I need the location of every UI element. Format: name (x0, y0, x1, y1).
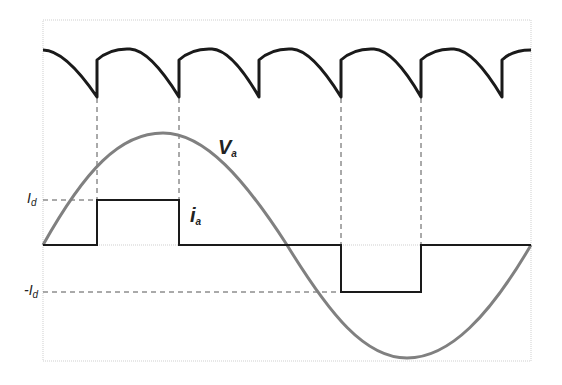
current-label: ia (190, 204, 201, 227)
phase-current (43, 200, 531, 292)
neg-id-label: -Id (24, 282, 38, 300)
dc-voltage-ripple (43, 49, 531, 97)
waveform-diagram (0, 0, 562, 385)
plot-frame (43, 20, 531, 361)
commutation-lines (97, 98, 421, 245)
id-label: Id (27, 190, 36, 208)
voltage-label: Va (218, 136, 237, 159)
